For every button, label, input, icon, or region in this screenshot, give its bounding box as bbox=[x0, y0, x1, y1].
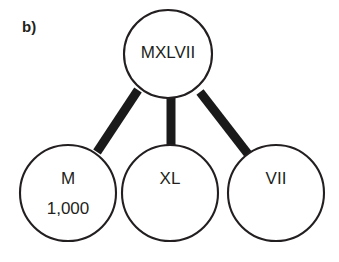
figure-root: b) MXLVII M 1,000 XL VII bbox=[0, 0, 339, 262]
node-root: MXLVII bbox=[124, 10, 212, 98]
node-m-value: 1,000 bbox=[47, 199, 90, 218]
node-m-label: M bbox=[61, 169, 75, 188]
node-root-label: MXLVII bbox=[141, 43, 195, 62]
edge-root-to-m bbox=[97, 90, 138, 152]
edge-root-to-vii bbox=[200, 92, 248, 154]
node-xl-circle bbox=[122, 145, 218, 241]
node-vii-circle bbox=[228, 145, 324, 241]
node-xl: XL bbox=[122, 145, 218, 241]
node-vii: VII bbox=[228, 145, 324, 241]
node-m-circle bbox=[20, 145, 116, 241]
node-m: M 1,000 bbox=[20, 145, 116, 241]
node-vii-label: VII bbox=[266, 169, 287, 188]
node-xl-label: XL bbox=[160, 169, 181, 188]
tree-diagram: MXLVII M 1,000 XL VII bbox=[0, 0, 339, 262]
